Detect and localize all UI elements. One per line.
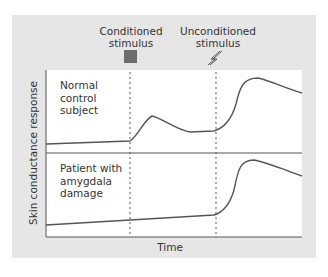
square-icon bbox=[124, 50, 137, 63]
x-axis-label: Time bbox=[150, 241, 190, 253]
patient-label: Patient with amygdala damage bbox=[60, 162, 122, 200]
lightning-icon bbox=[208, 51, 222, 65]
normal-label-line2: control bbox=[60, 92, 98, 105]
conditioned-stimulus-label: Conditioned stimulus bbox=[96, 25, 166, 49]
unconditioned-label-line1: Unconditioned bbox=[178, 25, 258, 37]
y-axis-label: Skin conductance response bbox=[27, 81, 39, 225]
normal-label-line1: Normal bbox=[60, 79, 98, 92]
conditioned-label-line2: stimulus bbox=[96, 37, 166, 49]
patient-label-line1: Patient with bbox=[60, 162, 122, 175]
patient-label-line3: damage bbox=[60, 187, 122, 200]
normal-subject-label: Normal control subject bbox=[60, 79, 98, 117]
conditioned-label-line1: Conditioned bbox=[96, 25, 166, 37]
patient-label-line2: amygdala bbox=[60, 175, 122, 188]
unconditioned-stimulus-label: Unconditioned stimulus bbox=[178, 25, 258, 49]
unconditioned-label-line2: stimulus bbox=[178, 37, 258, 49]
normal-label-line3: subject bbox=[60, 104, 98, 117]
